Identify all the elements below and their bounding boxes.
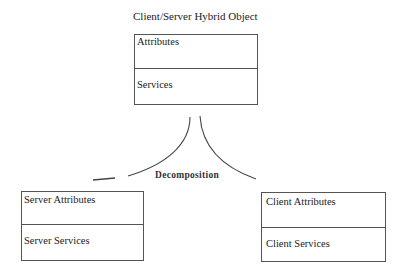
server-services-label: Server Services (24, 235, 90, 246)
server-services-compartment: Server Services (22, 225, 143, 261)
server-object-box: Server Attributes Server Services (21, 191, 144, 261)
client-attributes-label: Client Attributes (266, 196, 336, 207)
client-attributes-compartment: Client Attributes (262, 193, 385, 227)
client-services-label: Client Services (266, 238, 330, 249)
left-decomposition-curve (128, 117, 190, 176)
client-services-compartment: Client Services (262, 228, 385, 262)
left-decomposition-tail (93, 178, 115, 180)
server-attributes-label: Server Attributes (24, 194, 95, 205)
server-attributes-compartment: Server Attributes (22, 192, 143, 224)
decomposition-label: Decomposition (155, 170, 219, 180)
client-object-box: Client Attributes Client Services (261, 192, 386, 262)
